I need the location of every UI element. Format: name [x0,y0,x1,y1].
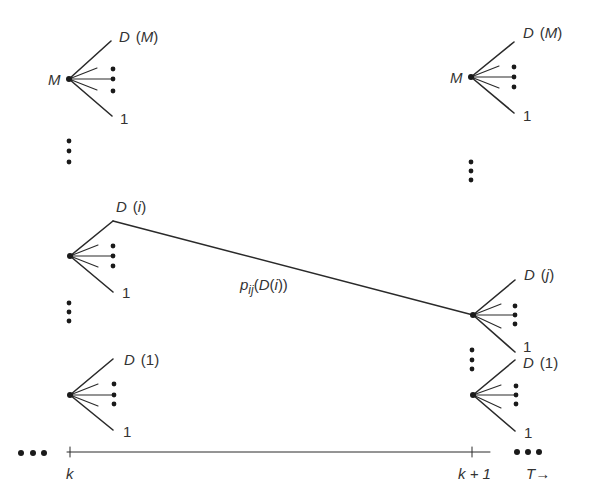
ellipsis-dot [67,149,72,154]
decision-top-label: D(1) [124,351,159,368]
vertical-ellipsis [67,301,72,324]
time-label: T→ [526,465,550,482]
node-right-M: M D(M) 1 [450,24,562,124]
state-node [67,392,73,398]
ellipsis-dot [111,254,116,259]
decision-top-label: D(M) [119,28,158,45]
ellipsis-dot [112,402,117,407]
time-axis: k k + 1 T→ [18,447,550,482]
branch-minor [70,395,98,406]
node-left-1: D(1) 1 [67,351,159,440]
arrow-right-icon: → [535,465,550,482]
ellipsis-dot [470,367,475,372]
branch-top [70,221,113,256]
state-label: M [450,69,463,86]
ellipsis-dot [470,348,475,353]
ellipsis-dot [513,304,518,309]
ellipsis-dot [111,89,116,94]
ellipsis-dot [470,358,475,363]
ellipsis-dot [513,313,518,318]
branch-minor [473,315,501,328]
state-node [470,392,476,398]
branch-bottom [473,315,515,352]
ellipsis-dot [30,450,36,456]
vertical-ellipsis [469,160,474,183]
branch-bottom [69,79,112,116]
ellipsis-dot [111,77,116,82]
ellipsis-dot [112,393,117,398]
branch-top [70,359,113,395]
branch-top [69,41,111,79]
vertical-ellipsis [470,348,475,372]
branch-minor [471,77,499,88]
node-right-j: D(j) 1 [470,266,554,355]
branch-minor [70,245,98,256]
ellipsis-dot [67,139,72,144]
branch-minor [471,66,499,77]
ellipsis-dot [67,160,72,165]
ellipsis-dot [67,310,72,315]
ellipsis-dot [512,65,517,70]
decision-top-label: D(i) [116,198,146,215]
transition-line [113,221,473,315]
decision-bottom-label: 1 [123,423,131,440]
ellipsis-dot [514,402,519,407]
ellipsis-dot [469,169,474,174]
vertical-ellipsis [67,139,72,165]
mdp-trellis-diagram: M D(M) 1 D(i) 1 D(1) [0,0,593,499]
transition-probability-label: pij(D(i)) [239,276,288,297]
ellipsis-dot [514,449,520,455]
node-left-M: M D(M) 1 [48,28,158,127]
ellipsis-dot [536,449,542,455]
decision-bottom-label: 1 [523,107,531,124]
decision-bottom-label: 1 [524,424,532,441]
branch-minor [69,68,97,79]
node-right-1: D(1) 1 [470,354,558,441]
decision-top-label: D(M) [523,24,562,41]
ellipsis-dot [111,264,116,269]
node-left-i: D(i) 1 [67,198,146,301]
branch-bottom [70,256,113,292]
ellipsis-dot [512,85,517,90]
stage-label-k: k [66,465,75,482]
branch-minor [70,256,98,267]
ellipsis-dot [469,178,474,183]
branch-bottom [473,395,515,431]
state-node [470,312,476,318]
ellipsis-dot [67,319,72,324]
decision-bottom-label: 1 [120,110,128,127]
ellipsis-dot [469,160,474,165]
branch-bottom [70,395,113,430]
branch-top [473,280,515,315]
state-node [66,76,72,82]
ellipsis-dot [67,301,72,306]
ellipsis-dot [112,382,117,387]
ellipsis-dot [512,75,517,80]
branch-top [473,360,515,395]
decision-top-label: D(1) [523,354,558,371]
state-node [468,74,474,80]
branch-minor [69,79,97,90]
ellipsis-dot [513,322,518,327]
branch-minor [70,384,98,395]
ellipsis-dot [514,384,519,389]
ellipsis-dot [111,244,116,249]
state-node [67,253,73,259]
branch-bottom [471,77,514,113]
ellipsis-dot [41,450,47,456]
ellipsis-dot [525,449,531,455]
ellipsis-dot [514,393,519,398]
branch-minor [473,304,501,315]
state-label: M [48,71,61,88]
decision-bottom-label: 1 [523,338,531,355]
stage-label-k-plus-1: k + 1 [458,465,491,482]
branch-top [471,42,514,77]
ellipsis-dot [111,67,116,72]
decision-top-label: D(j) [524,266,554,283]
ellipsis-dot [18,450,24,456]
transition-edge: pij(D(i)) [113,221,473,315]
decision-bottom-label: 1 [122,284,130,301]
branch-minor [473,385,501,395]
